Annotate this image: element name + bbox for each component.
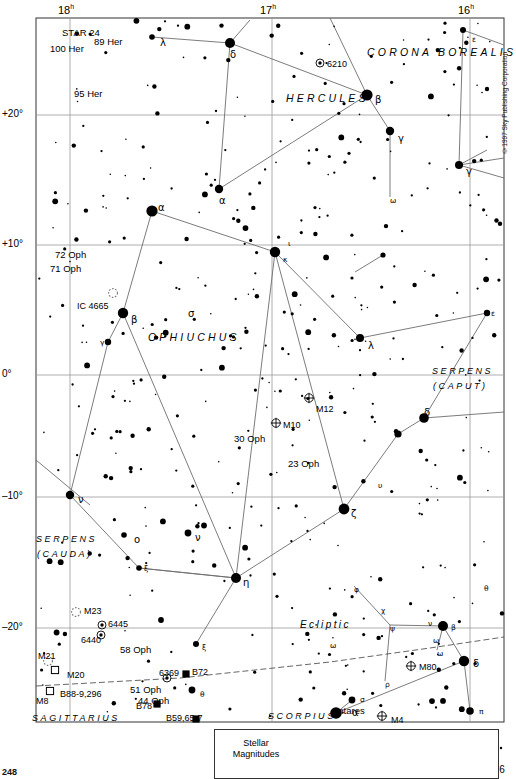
dso-symbol-B72 (182, 670, 189, 677)
star-field-dot-263 (417, 703, 419, 705)
star-field-dot-389 (184, 24, 190, 30)
greek-designation-label-26: θ (484, 585, 489, 593)
star-bright-10 (105, 339, 111, 345)
star-bright-14 (339, 504, 350, 515)
star-field-dot-80 (390, 490, 393, 493)
star-field-dot-299 (309, 419, 311, 421)
ra-label-0: 18h (58, 3, 74, 16)
star-field-dot-72 (76, 454, 78, 456)
star-field-dot-363 (142, 327, 144, 329)
star-field-dot-210 (277, 236, 280, 239)
star-field-dot-212 (481, 447, 483, 449)
greek-designation-label-14: γ (100, 339, 104, 347)
star-field-dot-38 (124, 630, 126, 632)
star-field-dot-290 (157, 27, 161, 31)
star-field-dot-105 (359, 374, 361, 376)
greek-designation-label-30: ν (428, 620, 432, 628)
star-field-dot-317 (281, 347, 284, 350)
star-field-dot-309 (370, 576, 372, 578)
star-field-dot-338 (359, 114, 361, 116)
star-field-dot-51 (332, 333, 336, 337)
star-field-dot-292 (135, 698, 137, 700)
constellation-label-4: (CAPUT) (433, 382, 488, 391)
dso-label-M80: M80 (419, 663, 437, 672)
star-field-dot-249 (492, 333, 496, 337)
dso-label-M23: M23 (84, 607, 102, 616)
star-field-dot-376 (111, 395, 114, 398)
star-field-dot-310 (255, 294, 259, 298)
star-field-dot-217 (371, 415, 374, 418)
star-field-dot-140 (331, 295, 334, 298)
star-field-dot-339 (253, 671, 256, 674)
star-field-dot-154 (363, 617, 365, 619)
star-field-dot-267 (84, 208, 88, 212)
star-field-dot-175 (488, 451, 490, 453)
dec-axis-label-1: +10° (2, 239, 23, 249)
star-field-dot-214 (403, 63, 405, 65)
star-field-dot-93 (481, 92, 483, 94)
dso-label-6440: 6440 (81, 636, 101, 645)
star-field-dot-332 (223, 580, 225, 582)
star-field-dot-1 (155, 394, 157, 396)
star-bright-20 (438, 621, 448, 631)
star-name-label-8: 58 Oph (120, 645, 151, 655)
greek-designation-label-25: φ (354, 586, 359, 594)
star-field-dot-236 (436, 488, 438, 490)
star-field-dot-251 (333, 172, 335, 174)
star-field-dot-151 (332, 485, 336, 489)
star-field-dot-71 (401, 230, 403, 232)
star-field-dot-416 (266, 407, 268, 409)
star-field-dot-19 (373, 177, 376, 180)
star-name-label-1: 89 Her (94, 37, 123, 47)
star-field-dot-26 (265, 344, 267, 346)
star-field-dot-369 (440, 564, 442, 566)
star-bright-26 (193, 641, 199, 647)
star-field-dot-113 (72, 143, 76, 147)
star-field-dot-223 (498, 222, 502, 226)
star-field-dot-189 (467, 37, 469, 39)
star-field-dot-397 (192, 435, 195, 438)
star-field-dot-130 (306, 277, 308, 279)
dso-label-IC 4665: IC 4665 (77, 302, 109, 311)
greek-designation-label-23: ξ (144, 565, 148, 573)
star-field-dot-316 (228, 707, 231, 710)
constellation-label-8: SCORPIUS (268, 712, 336, 721)
star-name-label-5: 71 Oph (50, 264, 81, 274)
star-field-dot-259 (418, 512, 420, 514)
star-field-dot-146 (206, 121, 209, 124)
star-field-dot-331 (313, 206, 316, 209)
star-field-dot-355 (110, 173, 112, 175)
star-field-dot-287 (108, 240, 111, 243)
star-field-dot-31 (270, 33, 274, 37)
star-field-dot-120 (357, 138, 360, 141)
star-bright-21 (459, 656, 469, 666)
greek-designation-label-11: ε (491, 310, 495, 318)
star-field-dot-273 (312, 686, 315, 689)
star-field-dot-96 (363, 440, 365, 442)
star-field-dot-380 (323, 523, 325, 525)
star-field-dot-77 (381, 635, 383, 637)
dso-label-M20: M20 (67, 671, 85, 680)
star-bright-28 (484, 310, 490, 316)
star-field-dot-379 (292, 291, 298, 297)
greek-designation-label-3: β (375, 95, 381, 105)
star-field-dot-22 (411, 652, 414, 655)
star-field-dot-39 (411, 194, 413, 196)
star-field-dot-101 (115, 430, 118, 433)
star-field-dot-352 (472, 603, 474, 605)
star-field-dot-373 (173, 686, 176, 689)
star-field-dot-392 (249, 239, 252, 242)
star-field-dot-265 (264, 168, 266, 170)
greek-designation-label-4: γ (398, 134, 404, 144)
star-field-dot-232 (57, 469, 59, 471)
star-field-dot-66 (130, 434, 134, 438)
star-field-dot-159 (152, 84, 156, 88)
star-field-dot-256 (309, 539, 311, 541)
star-field-dot-62 (419, 449, 423, 453)
star-field-dot-198 (472, 159, 476, 163)
star-field-dot-188 (323, 255, 329, 261)
greek-designation-label-13: β (131, 315, 137, 325)
star-field-dot-261 (343, 411, 346, 414)
star-field-dot-409 (305, 632, 309, 636)
constellation-label-0: CORONA BOREALIS (367, 47, 516, 58)
